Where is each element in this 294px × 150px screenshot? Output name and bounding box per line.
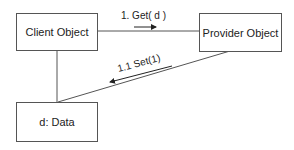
object-client[interactable]: Client Object xyxy=(16,13,98,51)
object-provider-label: Provider Object xyxy=(203,27,279,39)
object-client-label: Client Object xyxy=(26,26,89,38)
object-provider[interactable]: Provider Object xyxy=(199,13,282,52)
object-data[interactable]: d: Data xyxy=(16,102,98,142)
object-data-label: d: Data xyxy=(39,116,74,128)
message-label-get: 1. Get( d ) xyxy=(121,10,166,21)
